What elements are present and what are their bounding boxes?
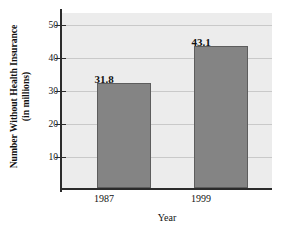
plot-area: [62, 13, 272, 188]
bar-value-1999: 43.1: [174, 37, 228, 48]
x-axis-line: [60, 188, 272, 190]
gridline-50: [62, 25, 272, 26]
y-tick-mark-10: [55, 157, 66, 159]
y-axis-line: [60, 9, 62, 192]
y-tick-mark-50: [55, 25, 66, 27]
y-tick-mark-40: [55, 58, 66, 60]
y-axis-title: Number Without Health Insurance (in mill…: [0, 0, 40, 192]
y-tick-mark-30: [55, 91, 66, 93]
bar-1999: [194, 46, 248, 188]
bar-1987: [97, 83, 151, 188]
y-axis-title-line1: Number Without Health Insurance: [9, 24, 21, 168]
x-tick-label-1999: 1999: [174, 193, 228, 204]
bar-chart-figure: Number Without Health Insurance (in mill…: [0, 0, 282, 234]
y-axis-title-line2: (in millions): [20, 24, 32, 168]
x-tick-label-1987: 1987: [77, 193, 131, 204]
y-tick-mark-20: [55, 124, 66, 126]
bar-value-1987: 31.8: [77, 74, 131, 85]
y-axis-tick-labels: 50 40 30 20 10: [36, 0, 58, 192]
x-axis-title: Year: [62, 212, 272, 223]
